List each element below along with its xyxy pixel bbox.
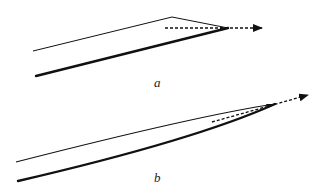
panel-b-thin-edge: [16, 104, 275, 162]
panel-a: [33, 17, 262, 76]
panel-a-label: a: [154, 76, 161, 89]
panel-b: [16, 95, 308, 181]
diagram-canvas: [0, 0, 323, 186]
panel-b-label: b: [154, 171, 161, 184]
panel-a-thick-edge: [36, 28, 228, 76]
panel-a-thin-edge: [33, 17, 228, 51]
panel-b-dashed-arrow: [212, 95, 308, 122]
